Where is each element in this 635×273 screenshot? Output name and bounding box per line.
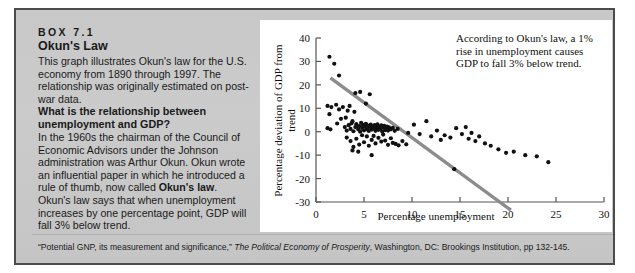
svg-text:30: 30 xyxy=(299,55,311,67)
scatter-points xyxy=(325,55,550,172)
footnote-rest: , Washington, DC: Brookings Institution,… xyxy=(370,242,570,252)
box-title: Okun's Law xyxy=(38,39,250,53)
footnote-divider xyxy=(32,234,615,235)
y-axis-title: Percentage deviation of GDP from trend xyxy=(272,41,297,201)
svg-text:20: 20 xyxy=(299,79,311,91)
svg-text:-30: -30 xyxy=(295,196,310,208)
box-text-column: BOX 7.1 Okun's Law This graph illustrate… xyxy=(38,26,250,232)
okuns-law-bold: Okun's law xyxy=(159,181,215,193)
box-question-heading: What is the relationship between unemplo… xyxy=(38,105,250,131)
box-number: BOX 7.1 xyxy=(38,26,250,38)
footnote-quote: “Potential GNP, its measurement and sign… xyxy=(38,242,234,252)
box-frame: BOX 7.1 Okun's Law This graph illustrate… xyxy=(14,8,615,265)
x-axis-title: Percentage unemployment xyxy=(260,210,612,222)
footnote-source-title: The Political Economy of Prosperity xyxy=(234,242,370,252)
svg-text:-10: -10 xyxy=(295,149,310,161)
chart-annotation: According to Okun's law, a 1% rise in un… xyxy=(456,32,596,70)
svg-text:40: 40 xyxy=(299,32,311,44)
svg-text:10: 10 xyxy=(299,102,311,114)
box-paragraph-1: This graph illustrates Okun's law for th… xyxy=(38,55,250,105)
box-paragraph-2: In the 1960s the chairman of the Council… xyxy=(38,131,250,232)
svg-text:0: 0 xyxy=(305,126,311,138)
svg-text:-20: -20 xyxy=(295,173,310,185)
chart-panel: -30-20-10010203040051015202530 According… xyxy=(260,20,612,232)
footnote: “Potential GNP, its measurement and sign… xyxy=(38,242,603,252)
